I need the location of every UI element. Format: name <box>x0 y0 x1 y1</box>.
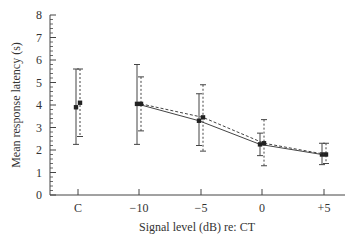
y-tick-label: 2 <box>36 143 42 157</box>
axes: 012345678C−10−50+5 <box>36 8 345 215</box>
x-tick-label: −5 <box>195 201 208 215</box>
series-solid <box>73 65 325 165</box>
response-latency-chart: 012345678C−10−50+5 Signal level (dB) re:… <box>0 0 356 243</box>
x-tick-label: C <box>74 201 82 215</box>
data-point-marker <box>324 152 328 156</box>
x-tick-label: 0 <box>259 201 265 215</box>
series-layer <box>73 65 329 166</box>
y-tick-label: 0 <box>36 188 42 202</box>
y-tick-label: 6 <box>36 53 42 67</box>
data-point-marker <box>197 119 201 123</box>
data-point-marker <box>74 105 78 109</box>
series-line <box>141 104 326 155</box>
y-tick-label: 7 <box>36 31 42 45</box>
data-point-marker <box>78 101 82 105</box>
y-tick-label: 5 <box>36 76 42 90</box>
data-point-marker <box>201 115 205 119</box>
x-tick-label: +5 <box>318 201 331 215</box>
chart-canvas: 012345678C−10−50+5 Signal level (dB) re:… <box>0 0 356 243</box>
data-point-marker <box>139 102 143 106</box>
data-point-marker <box>258 142 262 146</box>
y-axis-title: Mean response latency (s) <box>9 42 23 168</box>
x-tick-label: −10 <box>130 201 149 215</box>
series-dashed <box>77 69 329 166</box>
y-tick-label: 4 <box>36 98 42 112</box>
series-line <box>137 104 322 155</box>
data-point-marker <box>135 102 139 106</box>
y-tick-label: 1 <box>36 166 42 180</box>
x-axis-title: Signal level (dB) re: CT <box>139 220 256 234</box>
y-tick-label: 8 <box>36 8 42 22</box>
data-point-marker <box>262 141 266 145</box>
y-tick-label: 3 <box>36 121 42 135</box>
